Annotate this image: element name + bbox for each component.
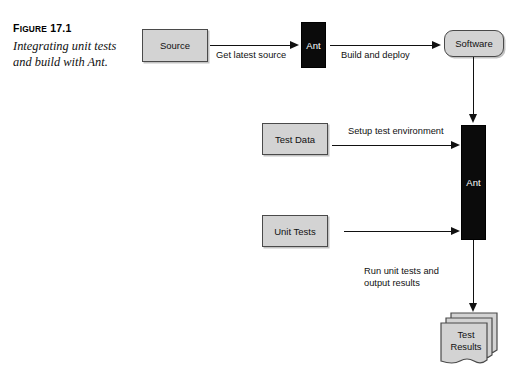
figure-caption-text: Integrating unit tests and build with An… [13, 39, 131, 70]
edge-software-to-ant-main [473, 57, 474, 115]
node-test-results: Test Results [434, 310, 510, 366]
figure-number-heading: FIGURE 17.1 [13, 22, 131, 36]
node-unit-tests: Unit Tests [262, 215, 328, 247]
edge-label-build-and-deploy: Build and deploy [341, 49, 410, 61]
figure-label-rest: IGURE [20, 24, 48, 34]
edge-label-run-unit-tests: Run unit tests and output results [364, 265, 439, 289]
edge-test-data-to-ant [332, 145, 452, 146]
arrowhead-source-to-ant [290, 41, 299, 49]
node-software-label: Software [455, 38, 493, 49]
node-source: Source [142, 29, 208, 62]
node-test-data-label: Test Data [275, 134, 315, 145]
arrowhead-test-data-to-ant [451, 141, 460, 149]
node-ant-top: Ant [301, 22, 326, 68]
figure-canvas: FIGURE 17.1 Integrating unit tests and b… [0, 0, 516, 367]
arrowhead-ant-to-software [432, 41, 441, 49]
arrowhead-software-to-ant-main [469, 114, 477, 123]
arrowhead-unit-tests-to-ant [451, 227, 460, 235]
edge-unit-tests-to-ant [344, 231, 452, 232]
node-ant-main: Ant [461, 125, 486, 240]
edge-ant-to-software [330, 45, 433, 46]
node-software: Software [444, 30, 504, 57]
node-ant-top-label: Ant [306, 40, 320, 51]
node-ant-main-label: Ant [466, 177, 480, 188]
figure-label-prefix: F [13, 22, 20, 34]
figure-number: 17.1 [50, 22, 71, 34]
node-test-results-label: Test Results [444, 330, 488, 353]
edge-label-get-latest-source: Get latest source [216, 49, 286, 61]
edge-source-to-ant [210, 45, 291, 46]
edge-label-setup-test-environment: Setup test environment [348, 125, 444, 137]
node-unit-tests-label: Unit Tests [274, 226, 316, 237]
edge-ant-to-test-results [473, 240, 474, 304]
node-source-label: Source [160, 40, 190, 51]
figure-caption-block: FIGURE 17.1 Integrating unit tests and b… [13, 22, 131, 70]
node-test-data: Test Data [262, 123, 328, 155]
